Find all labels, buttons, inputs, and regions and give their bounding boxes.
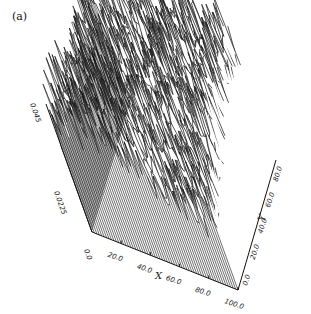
surface-plot: 20.040.060.080.0100.0 0.020.040.060.080.… xyxy=(0,0,311,314)
x-axis-label: X xyxy=(154,270,163,281)
y-tick-label: 0.0 xyxy=(241,273,252,287)
y-axis-label: Y xyxy=(255,212,268,223)
x-tick-label: 60.0 xyxy=(165,274,183,287)
z-tick-label: 0.0 xyxy=(82,248,94,262)
x-tick-label: 40.0 xyxy=(136,262,154,275)
surface-wireframe xyxy=(43,0,276,290)
z-tick-label: 0.045 xyxy=(28,102,43,124)
z-tick-label: 0.0225 xyxy=(52,190,68,216)
x-tick-label: 100.0 xyxy=(223,297,245,311)
x-tick-label: 20.0 xyxy=(107,251,125,264)
x-tick-label: 80.0 xyxy=(194,286,212,299)
